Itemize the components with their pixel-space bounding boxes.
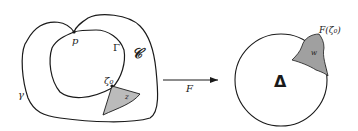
label-Delta: Δ — [274, 74, 286, 90]
arrowhead-icon — [210, 77, 218, 83]
outer-curve-gamma — [22, 15, 157, 122]
label-gamma: γ — [18, 90, 24, 100]
label-Gamma: Γ — [113, 43, 120, 53]
diagram-canvas — [0, 0, 358, 131]
label-region-E: 𝒞 — [132, 46, 142, 60]
label-zeta0: ζ₀ — [104, 76, 113, 86]
label-z: z — [125, 94, 129, 101]
label-F-zeta0: F(ζ₀) — [319, 26, 341, 35]
shaded-region-w — [292, 34, 328, 76]
label-F: F — [186, 84, 193, 94]
label-p: p — [72, 36, 78, 46]
point-p — [72, 30, 75, 33]
label-w: w — [311, 50, 317, 57]
